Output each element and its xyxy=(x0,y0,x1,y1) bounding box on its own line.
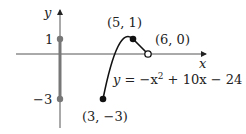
tick-label-1: 1 xyxy=(45,32,53,47)
x-axis-label: x xyxy=(199,56,207,71)
tick-label-neg3: −3 xyxy=(33,92,52,107)
function-graph: y 1 −3 x (5, 1) (6, 0) (3, −3) y = −x2 +… xyxy=(0,0,246,134)
point-vertex xyxy=(130,36,137,43)
range-endpoint-bottom xyxy=(57,96,63,102)
equation-label: y = −x2 + 10x − 24 xyxy=(112,71,242,87)
label-open: (6, 0) xyxy=(155,32,190,47)
point-start xyxy=(100,96,107,103)
range-endpoint-top xyxy=(57,36,63,42)
label-vertex: (5, 1) xyxy=(107,15,142,30)
label-start: (3, −3) xyxy=(82,109,128,124)
parabola-curve xyxy=(103,37,148,100)
y-axis-label: y xyxy=(43,5,52,20)
point-open xyxy=(145,51,151,57)
